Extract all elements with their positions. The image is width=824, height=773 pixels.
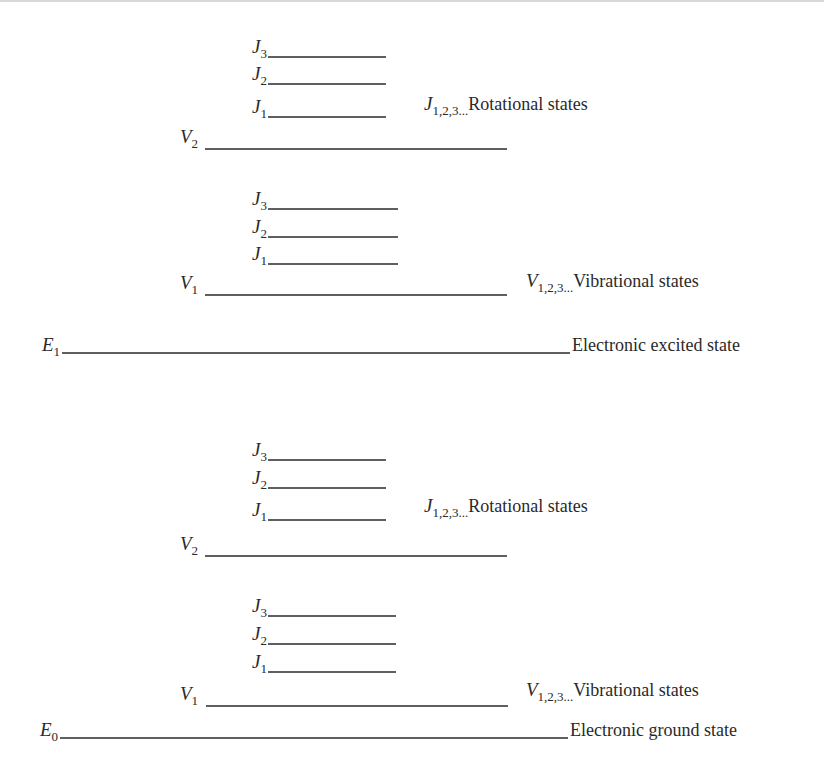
vibrational-level-symbol-lower-V2: V2 <box>180 533 198 558</box>
rotational-level-symbol-lower-V1-J1: J1 <box>252 651 267 676</box>
rotational-level-symbol-lower-V2-J1: J1 <box>252 499 267 524</box>
vibrational-level-symbol-upper-V1: V1 <box>180 272 198 297</box>
state-annotations: J1,2,3...Rotational statesV1,2,3...Vibra… <box>424 93 699 704</box>
electronic-level-symbol-E0: E0 <box>39 719 58 744</box>
annotation-lower-rotational-note: J1,2,3...Rotational states <box>424 495 588 520</box>
rotational-level-symbol-upper-V1-J3: J3 <box>252 188 267 213</box>
rotational-level-symbol-lower-V2-J3: J3 <box>252 439 267 464</box>
electronic-level-label-E0: Electronic ground state <box>570 720 737 740</box>
annotation-upper-vibrational-note: V1,2,3...Vibrational states <box>526 270 699 295</box>
vibrational-level-symbol-lower-V1: V1 <box>180 683 198 708</box>
vibrational-levels: V2V1V2V1 <box>180 126 508 708</box>
rotational-level-symbol-lower-V1-J3: J3 <box>252 595 267 620</box>
rotational-level-symbol-upper-V1-J2: J2 <box>252 216 267 241</box>
rotational-level-symbol-lower-V2-J2: J2 <box>252 467 267 492</box>
energy-level-diagram: E1Electronic excited stateE0Electronic g… <box>0 0 824 773</box>
rotational-level-symbol-upper-V2-J3: J3 <box>252 36 267 61</box>
vibrational-level-symbol-upper-V2: V2 <box>180 126 198 151</box>
annotation-lower-vibrational-note: V1,2,3...Vibrational states <box>526 679 699 704</box>
annotation-upper-rotational-note: J1,2,3...Rotational states <box>424 93 588 118</box>
rotational-level-symbol-upper-V1-J1: J1 <box>252 243 267 268</box>
rotational-level-symbol-upper-V2-J2: J2 <box>252 63 267 88</box>
electronic-level-symbol-E1: E1 <box>41 334 60 359</box>
rotational-level-symbol-upper-V2-J1: J1 <box>252 96 267 121</box>
electronic-level-label-E1: Electronic excited state <box>572 335 740 355</box>
rotational-level-symbol-lower-V1-J2: J2 <box>252 623 267 648</box>
rotational-levels: J3J2J1J3J2J1J3J2J1J3J2J1 <box>252 36 398 676</box>
